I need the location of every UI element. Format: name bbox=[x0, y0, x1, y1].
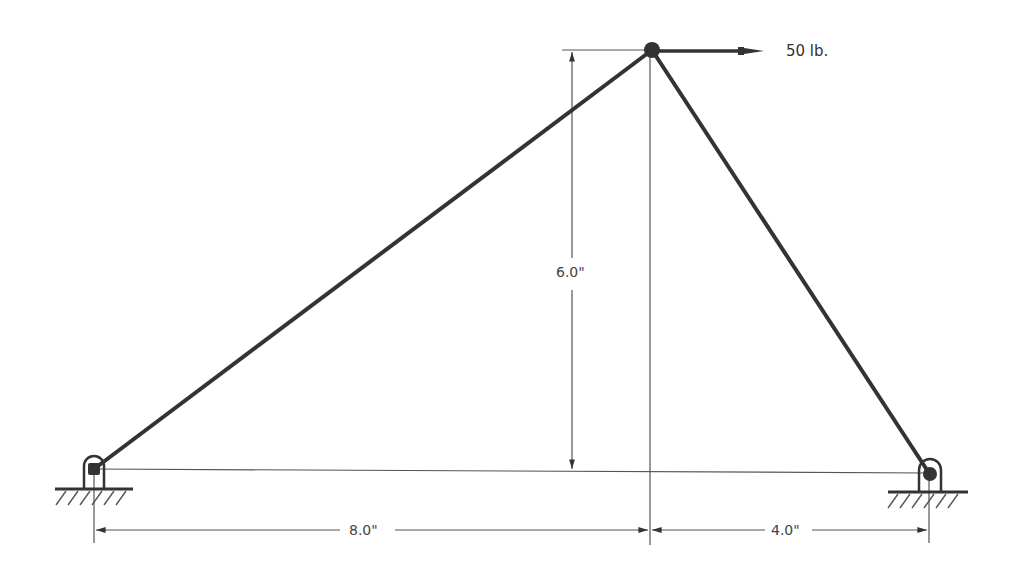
right-span-dimension-label: 4.0" bbox=[768, 522, 803, 538]
truss-diagram bbox=[0, 0, 1019, 573]
height-dimension-label: 6.0" bbox=[553, 264, 588, 280]
left-span-dimension-label: 8.0" bbox=[346, 522, 381, 538]
right-pin-support-icon bbox=[888, 459, 968, 508]
baseline-line bbox=[94, 469, 929, 473]
left-member bbox=[94, 50, 652, 469]
force-label: 50 lb. bbox=[783, 43, 831, 59]
top-joint-icon bbox=[644, 42, 660, 58]
right-member bbox=[652, 50, 929, 473]
force-arrow-icon bbox=[652, 47, 764, 55]
